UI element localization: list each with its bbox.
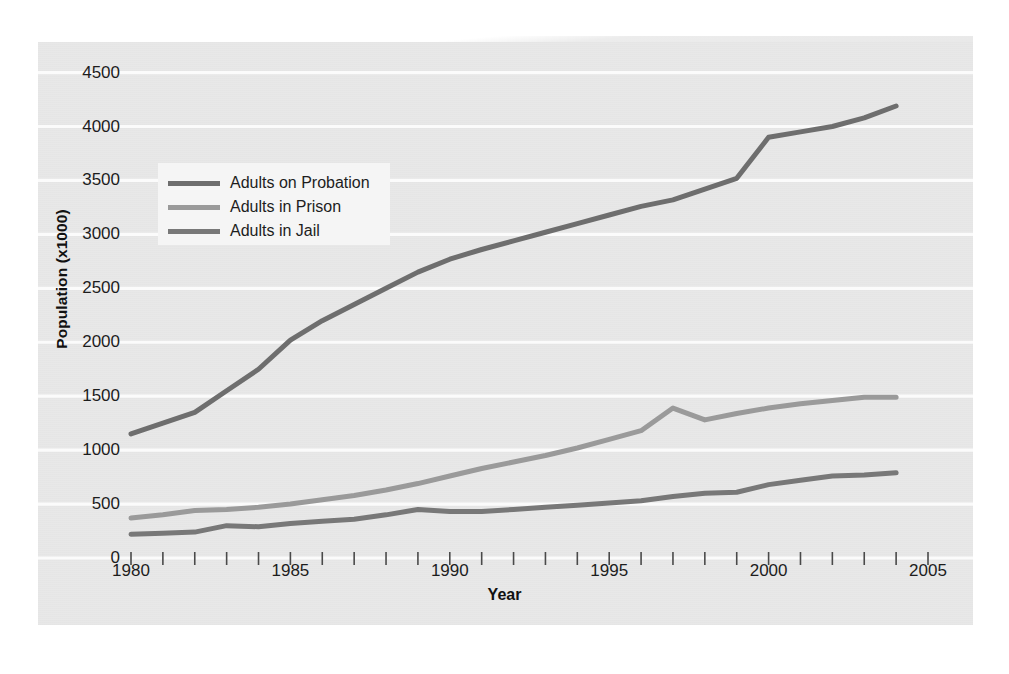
legend-item-label: Adults in Jail	[230, 222, 320, 240]
y-axis-tick-label: 1000	[60, 440, 120, 460]
line-chart-plot	[0, 0, 1009, 674]
y-axis-tick-label: 0	[60, 548, 120, 568]
series-line	[131, 397, 896, 518]
legend: Adults on ProbationAdults in PrisonAdult…	[158, 163, 390, 245]
x-axis-tick-label: 1990	[431, 561, 469, 581]
x-axis-tick-label: 1995	[590, 561, 628, 581]
legend-item-label: Adults on Probation	[230, 174, 370, 192]
legend-item: Adults in Jail	[168, 219, 320, 243]
y-axis-tick-label: 4500	[60, 63, 120, 83]
y-axis-title: Population (x1000)	[53, 179, 71, 379]
legend-swatch-icon	[168, 205, 220, 210]
y-axis-tick-label: 500	[60, 494, 120, 514]
legend-item: Adults on Probation	[168, 171, 370, 195]
x-axis-tick-label: 1980	[112, 561, 150, 581]
legend-swatch-icon	[168, 229, 220, 234]
legend-swatch-icon	[168, 181, 220, 186]
x-axis-tick-label: 1985	[271, 561, 309, 581]
x-axis-title: Year	[0, 586, 1009, 604]
legend-item-label: Adults in Prison	[230, 198, 341, 216]
x-axis-tick-label: 2000	[750, 561, 788, 581]
figure: 050010001500200025003000350040004500 198…	[0, 0, 1009, 674]
legend-item: Adults in Prison	[168, 195, 341, 219]
y-axis-tick-label: 1500	[60, 386, 120, 406]
gridlines	[38, 73, 973, 558]
series-line	[131, 106, 896, 434]
x-axis-tick-label: 2005	[909, 561, 947, 581]
y-axis-tick-label: 4000	[60, 117, 120, 137]
